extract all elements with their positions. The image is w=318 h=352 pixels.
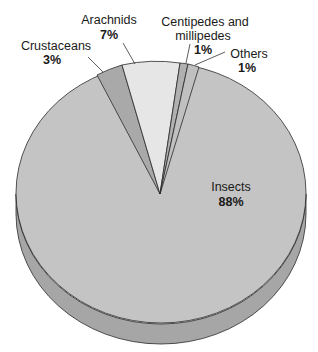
pct-others: 1%	[238, 61, 256, 75]
pct-insects: 88%	[218, 195, 243, 209]
pie-chart: Arachnids 7% Crustaceans 3% Centipedes a…	[0, 0, 318, 352]
pct-crustaceans: 3%	[43, 53, 61, 67]
label-centipedes-line2: millipedes	[175, 29, 231, 43]
pct-arachnids: 7%	[100, 28, 118, 42]
leader-line-arachnids	[123, 43, 135, 64]
leader-line-crustaceans	[88, 57, 103, 72]
pct-centipedes: 1%	[194, 43, 212, 57]
label-centipedes-line1: Centipedes and	[161, 15, 249, 29]
label-insects: Insects	[211, 180, 251, 194]
label-arachnids: Arachnids	[81, 13, 137, 27]
leader-line-centipedes	[186, 44, 190, 63]
label-others: Others	[230, 47, 268, 61]
label-crustaceans: Crustaceans	[21, 39, 91, 53]
